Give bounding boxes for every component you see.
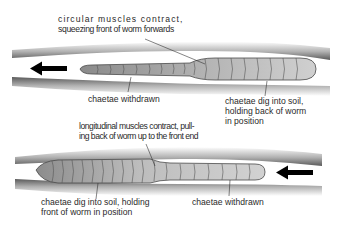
circular-muscles-label-line2: squeezing front of worm forwards bbox=[58, 25, 174, 35]
worm-stage-2 bbox=[36, 159, 265, 183]
chaetae-withdrawn-label: chaetae withdrawn bbox=[192, 198, 264, 208]
direction-arrow-left-icon bbox=[276, 166, 313, 180]
longitudinal-muscles-label-line2: ing back of worm up to the front end bbox=[79, 132, 198, 142]
soil-upper bbox=[12, 42, 330, 60]
stage-2-diagram: longitudinal muscles contract, pull- ing… bbox=[0, 114, 341, 228]
chaetae-dig-label-line2: front of worm in position bbox=[41, 208, 132, 218]
chaetae-withdrawn-label: chaetae withdrawn bbox=[88, 95, 160, 105]
stage-1-diagram: circular muscles contract, squeezing fro… bbox=[0, 0, 341, 114]
direction-arrow-left-icon bbox=[30, 62, 67, 76]
